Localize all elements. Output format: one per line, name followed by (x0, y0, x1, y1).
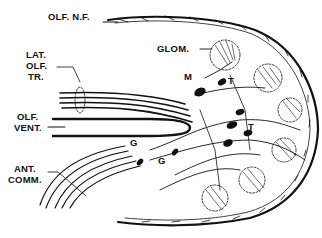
label-olf-ventricle-line2: VENT. (14, 123, 42, 133)
olfactory-bulb-diagram: OLF. N.F. GLOM. LAT. OLF. TR. OLF. VENT.… (0, 0, 322, 238)
label-lat-olf-tract-line1: LAT. (26, 50, 46, 60)
label-granule-cell-2: G (158, 156, 166, 166)
label-lat-olf-tract-line2: OLF. (26, 61, 47, 71)
bulb-outline (108, 17, 318, 225)
label-tufted-cell-2: T (248, 122, 254, 132)
label-glomeruli: GLOM. (157, 44, 189, 54)
label-lat-olf-tract-line3: TR. (28, 72, 44, 82)
label-olf-ventricle-line1: OLF. (17, 112, 38, 122)
label-ant-commissure-line2: COMM. (8, 175, 42, 185)
diagram-drawing (0, 0, 322, 238)
label-granule-cell-1: G (130, 138, 138, 148)
mitral-cell-body (193, 86, 207, 98)
label-mitral-cell: M (184, 72, 192, 82)
label-ant-commissure-line1: ANT. (14, 164, 36, 174)
label-tufted-cell-1: T (228, 76, 234, 86)
glomerulus (210, 40, 240, 70)
label-olf-nerve-fibers: OLF. N.F. (48, 12, 90, 22)
